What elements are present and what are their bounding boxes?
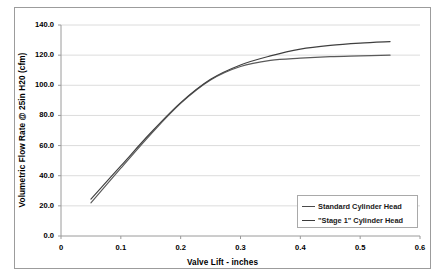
- legend-label-stage1: "Stage 1" Cylinder Head: [318, 216, 403, 225]
- y-tick-label: 80.0: [14, 110, 54, 119]
- legend-line-swatch-standard: [302, 206, 315, 207]
- legend-line-swatch-stage1: [302, 220, 315, 221]
- y-tick-label: 100.0: [14, 80, 54, 89]
- legend-item-stage1: "Stage 1" Cylinder Head: [302, 214, 403, 226]
- x-tick-label: 0: [46, 243, 76, 252]
- y-tick-label: 140.0: [14, 20, 54, 29]
- series-line-0: [91, 55, 390, 203]
- y-tick-label: 20.0: [14, 201, 54, 210]
- legend-label-standard: Standard Cylinder Head: [318, 202, 402, 211]
- chart-figure: Volumetric Flow Rate @ 25in H20 (cfm) Va…: [0, 0, 445, 279]
- data-series-layer: [91, 42, 390, 203]
- x-tick-label: 0.1: [106, 243, 136, 252]
- legend-item-standard: Standard Cylinder Head: [302, 200, 402, 212]
- gridlines: [61, 25, 420, 206]
- y-axis-title: Volumetric Flow Rate @ 25in H20 (cfm): [18, 52, 27, 207]
- x-tick-label: 0.4: [285, 243, 315, 252]
- x-tick-label: 0.5: [345, 243, 375, 252]
- y-tick-label: 0.0: [14, 231, 54, 240]
- y-tick-label: 60.0: [14, 141, 54, 150]
- chart-plot-area: [0, 0, 445, 279]
- x-axis-title: Valve Lift - inches: [0, 258, 445, 267]
- chart-legend: Standard Cylinder Head "Stage 1" Cylinde…: [297, 195, 418, 228]
- y-tick-label: 120.0: [14, 50, 54, 59]
- x-tick-label: 0.3: [226, 243, 256, 252]
- y-tick-label: 40.0: [14, 171, 54, 180]
- x-tick-label: 0.6: [405, 243, 435, 252]
- x-tick-label: 0.2: [166, 243, 196, 252]
